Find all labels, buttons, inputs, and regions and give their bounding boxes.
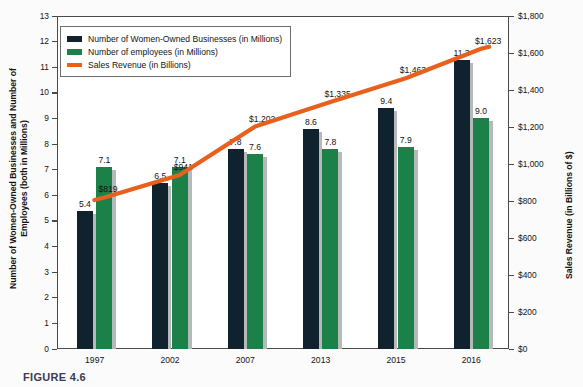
chart-legend: Number of Women-Owned Businesses (in Mil… xyxy=(60,26,291,77)
right-tick-label: $1,600 xyxy=(518,49,544,57)
bar-shadow-employees xyxy=(489,121,493,349)
left-tick-mark xyxy=(52,92,57,93)
bar-value-businesses: 11.3 xyxy=(446,49,478,58)
left-tick-label: 5 xyxy=(23,216,49,224)
right-tick-mark xyxy=(509,127,514,128)
bar-value-employees: 7.1 xyxy=(88,156,120,165)
bar-shadow-employees xyxy=(263,157,267,349)
legend-item-businesses: Number of Women-Owned Businesses (in Mil… xyxy=(67,32,282,45)
bar-businesses xyxy=(378,108,394,349)
right-tick-label: $800 xyxy=(518,197,537,205)
figure-container: Number of Women-Owned Businesses and Num… xyxy=(0,0,583,387)
x-axis-label-2015: 2015 xyxy=(358,356,433,365)
left-tick-label: 1 xyxy=(23,319,49,327)
right-tick-label: $1,800 xyxy=(518,12,544,20)
left-tick-label: 0 xyxy=(23,345,49,353)
right-tick-label: $0 xyxy=(518,345,527,353)
right-tick-mark xyxy=(509,16,514,17)
line-value-revenue: $941 xyxy=(174,163,193,172)
right-tick-label: $400 xyxy=(518,271,537,279)
bar-businesses xyxy=(152,183,168,350)
legend-swatch-businesses xyxy=(67,36,82,42)
left-tick-mark xyxy=(52,246,57,247)
line-value-revenue: $1,202 xyxy=(249,115,275,124)
right-tick-mark xyxy=(509,53,514,54)
left-tick-label: 9 xyxy=(23,114,49,122)
bar-value-employees: 7.6 xyxy=(239,143,271,152)
bar-employees xyxy=(96,167,112,349)
bar-shadow-employees xyxy=(112,170,116,349)
legend-label-businesses: Number of Women-Owned Businesses (in Mil… xyxy=(88,34,282,44)
right-tick-label: $1,200 xyxy=(518,123,544,131)
bar-value-businesses: 9.4 xyxy=(370,97,402,106)
x-axis-label-1997: 1997 xyxy=(57,356,132,365)
bar-value-employees: 7.8 xyxy=(314,138,346,147)
bar-shadow-employees xyxy=(338,152,342,349)
x-axis-label-2002: 2002 xyxy=(132,356,207,365)
line-value-revenue: $1,335 xyxy=(324,90,350,99)
right-tick-mark xyxy=(509,90,514,91)
bar-value-businesses: 5.4 xyxy=(69,200,101,209)
left-tick-label: 2 xyxy=(23,293,49,301)
left-tick-label: 7 xyxy=(23,165,49,173)
bar-value-employees: 9.0 xyxy=(465,107,497,116)
right-tick-mark xyxy=(509,312,514,313)
left-tick-mark xyxy=(52,41,57,42)
bar-employees xyxy=(322,149,338,349)
left-tick-label: 6 xyxy=(23,191,49,199)
right-tick-mark xyxy=(509,238,514,239)
left-tick-mark xyxy=(52,144,57,145)
x-axis-label-2007: 2007 xyxy=(208,356,283,365)
left-tick-mark xyxy=(52,169,57,170)
bar-employees xyxy=(247,154,263,349)
bar-employees xyxy=(398,147,414,349)
left-tick-mark xyxy=(52,67,57,68)
right-axis-title: Sales Revenue (in Billions of $) xyxy=(564,90,575,340)
left-tick-mark xyxy=(52,323,57,324)
bar-businesses xyxy=(303,129,319,349)
left-tick-mark xyxy=(52,349,57,350)
right-tick-mark xyxy=(509,201,514,202)
bar-value-businesses: 6.5 xyxy=(144,172,176,181)
left-tick-mark xyxy=(52,220,57,221)
bar-employees xyxy=(172,167,188,349)
left-tick-mark xyxy=(52,272,57,273)
right-tick-label: $200 xyxy=(518,308,537,316)
left-tick-label: 13 xyxy=(23,12,49,20)
legend-swatch-revenue xyxy=(67,63,82,67)
right-tick-label: $1,000 xyxy=(518,160,544,168)
x-axis-label-2016: 2016 xyxy=(434,356,509,365)
left-tick-mark xyxy=(52,297,57,298)
legend-label-employees: Number of employees (in Millions) xyxy=(88,47,218,57)
legend-label-revenue: Sales Revenue (in Billions) xyxy=(88,60,191,70)
bar-value-employees: 7.9 xyxy=(390,136,422,145)
left-tick-mark xyxy=(52,195,57,196)
line-value-revenue: $1,623 xyxy=(475,37,501,46)
figure-caption: FIGURE 4.6 xyxy=(23,371,86,385)
legend-item-employees: Number of employees (in Millions) xyxy=(67,45,282,58)
bar-value-businesses: 8.6 xyxy=(295,118,327,127)
left-tick-label: 4 xyxy=(23,242,49,250)
bar-shadow-employees xyxy=(188,170,192,349)
right-tick-label: $1,400 xyxy=(518,86,544,94)
left-tick-label: 11 xyxy=(23,63,49,71)
bar-businesses xyxy=(228,149,244,349)
left-tick-label: 12 xyxy=(23,37,49,45)
left-tick-mark xyxy=(52,16,57,17)
left-tick-label: 3 xyxy=(23,268,49,276)
left-tick-label: 10 xyxy=(23,88,49,96)
bar-shadow-employees xyxy=(414,150,418,349)
line-value-revenue: $819 xyxy=(98,185,117,194)
right-tick-mark xyxy=(509,164,514,165)
line-value-revenue: $1,463 xyxy=(400,66,426,75)
right-tick-mark xyxy=(509,349,514,350)
bar-businesses xyxy=(77,211,93,349)
legend-item-revenue: Sales Revenue (in Billions) xyxy=(67,58,282,71)
right-tick-mark xyxy=(509,275,514,276)
legend-swatch-employees xyxy=(67,49,82,55)
right-tick-label: $600 xyxy=(518,234,537,242)
bar-employees xyxy=(473,118,489,349)
x-axis-label-2013: 2013 xyxy=(283,356,358,365)
left-tick-label: 8 xyxy=(23,140,49,148)
bar-businesses xyxy=(454,60,470,349)
